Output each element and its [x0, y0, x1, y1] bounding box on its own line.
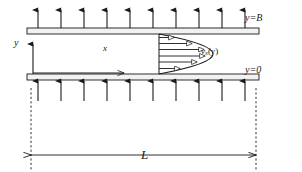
- label-y-equals-0: y=0: [245, 65, 261, 75]
- label-axis-y: y: [14, 38, 18, 48]
- label-y-equals-B: y=B: [245, 13, 262, 23]
- label-velocity-profile: vx(y): [201, 47, 218, 57]
- coordinate-axes: [33, 44, 124, 74]
- top-arrow-row: [38, 10, 245, 28]
- top-plate: [27, 28, 259, 34]
- label-axis-x: x: [103, 44, 107, 53]
- bottom-arrow-row: [38, 81, 245, 101]
- label-length-L: L: [141, 148, 148, 161]
- figure-container: y=B y=0 vx(y) y x L: [0, 0, 302, 172]
- bottom-plate: [27, 74, 259, 80]
- velocity-argument: (y): [208, 46, 219, 56]
- flow-diagram-svg: [0, 0, 302, 172]
